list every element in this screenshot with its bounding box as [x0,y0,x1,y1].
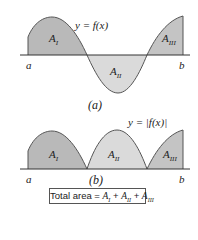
bound-b-top: b [179,60,185,71]
total-area-formula: Total area = AI + AII + AIII [49,188,146,204]
region-label-a3: AIII [162,33,176,47]
bound-a-top: a [26,60,32,71]
region-label-b2: AII [108,149,119,163]
region-label-b3: AIII [163,149,177,163]
function-label-a: y = f(x) [75,20,108,31]
region-label-b1: AI [49,149,58,163]
formula-prefix: Total area = [50,190,103,201]
caption-b: (b) [89,174,103,186]
caption-a: (a) [88,99,102,111]
bound-a-bottom: a [26,174,32,185]
bound-b-bottom: b [179,174,185,185]
region-label-a1: AI [49,33,58,47]
region-label-a2: AII [110,66,121,80]
function-label-b: y = |f(x)| [128,117,167,128]
